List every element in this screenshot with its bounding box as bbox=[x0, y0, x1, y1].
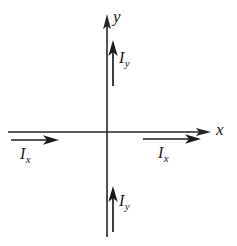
current-x-right-label: Ix bbox=[158, 145, 168, 161]
current-y-upper-label-subscript: y bbox=[125, 57, 130, 69]
current-y-lower-label-subscript: y bbox=[125, 200, 130, 212]
current-y-lower-label-base: I bbox=[119, 192, 124, 209]
current-x-left-label-subscript: x bbox=[26, 153, 31, 165]
current-x-right-label-base: I bbox=[158, 144, 163, 161]
y-axis-label: y bbox=[113, 8, 121, 25]
current-vector-diagram: y x Ix Ix Iy Iy bbox=[0, 0, 237, 246]
current-x-left-vector bbox=[11, 135, 59, 144]
diagram-canvas bbox=[0, 0, 237, 246]
x-axis-label: x bbox=[216, 121, 224, 138]
current-y-upper-label: Iy bbox=[119, 50, 129, 66]
current-y-lower-label: Iy bbox=[119, 193, 129, 209]
y-axis bbox=[103, 14, 111, 237]
current-x-right-label-subscript: x bbox=[164, 152, 169, 164]
current-y-upper-label-base: I bbox=[119, 49, 124, 66]
x-axis bbox=[8, 128, 211, 136]
current-x-left-label-base: I bbox=[20, 145, 25, 162]
current-y-upper-vector bbox=[108, 40, 117, 86]
current-y-lower-vector bbox=[108, 186, 117, 232]
current-x-right-vector bbox=[143, 134, 201, 143]
current-x-left-label: Ix bbox=[20, 146, 30, 162]
